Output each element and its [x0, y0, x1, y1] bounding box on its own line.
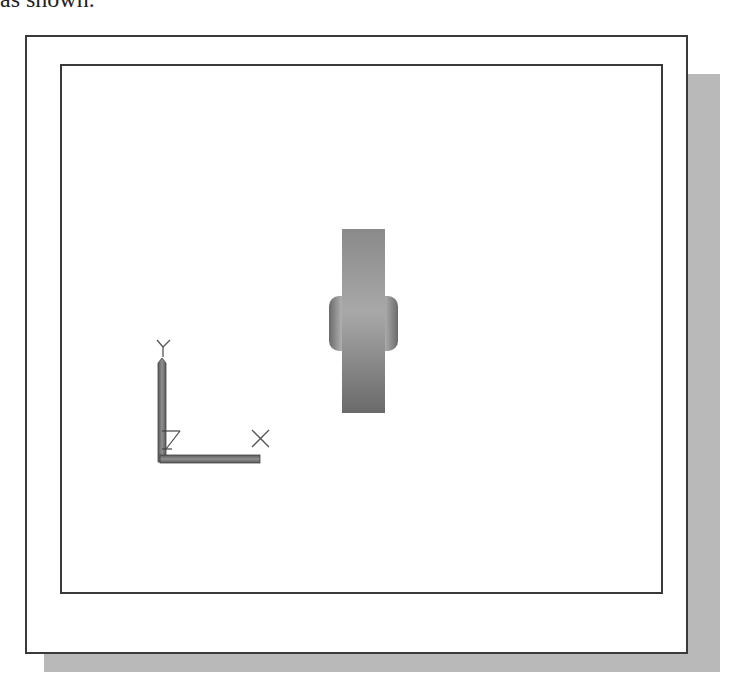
x-axis-label-icon — [252, 430, 269, 447]
drawing-viewport[interactable] — [60, 64, 663, 594]
y-axis-label-icon — [157, 340, 170, 357]
ucs-icon — [157, 340, 269, 463]
part-body — [342, 229, 385, 413]
caption-text: as shown. — [0, 0, 95, 13]
part-model[interactable] — [329, 229, 398, 413]
